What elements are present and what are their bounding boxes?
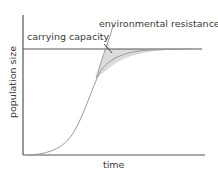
population-growth-diagram: environmental resistance carrying capaci… <box>0 0 218 173</box>
diagram-canvas: environmental resistance carrying capaci… <box>0 0 218 173</box>
x-axis-label: time <box>103 159 125 170</box>
carrying-capacity-label: carrying capacity <box>27 31 110 42</box>
environmental-resistance-area <box>96 42 185 78</box>
y-axis-label: population size <box>7 46 18 118</box>
environmental-resistance-label: environmental resistance <box>99 18 218 29</box>
